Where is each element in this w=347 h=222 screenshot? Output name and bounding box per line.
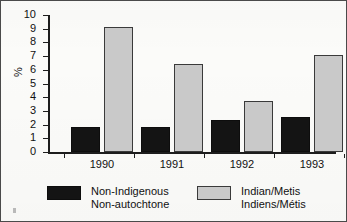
bar-1990-indian-metis [104,27,133,152]
bar-1993-indian-metis [314,55,343,152]
bar-1992-non-indigenous [211,120,240,152]
x-axis-line [48,152,336,154]
chart-legend: Non-Indigenous Non-autochtone Indian/Met… [1,185,347,219]
x-axis-tick [134,154,135,158]
plot-area: 109876543210 [48,15,336,154]
bar-group [211,15,273,152]
legend-label-indian-metis: Indian/Metis Indiens/Métis [241,185,306,210]
y-axis-tick-label: 6 [30,63,36,76]
legend-item-indian-metis: Indian/Metis Indiens/Métis [197,185,306,210]
y-axis-tick-label: 3 [30,104,36,117]
y-axis-tick-label: 4 [30,90,36,103]
legend-label-line-en: Non-Indigenous [91,185,169,198]
x-axis-tick [204,154,205,158]
y-axis-tick: 9 [43,29,48,30]
x-axis-tick [64,154,65,158]
legend-label-non-indigenous: Non-Indigenous Non-autochtone [91,185,169,210]
y-axis-tick: 8 [43,42,48,43]
y-axis-tick: 0 [43,152,48,153]
y-axis-tick-label: 2 [30,118,36,131]
y-axis-title: % [13,67,24,77]
y-axis-tick-label: 1 [30,131,36,144]
y-axis-tick: 10 [43,15,48,16]
y-axis-tick-label: 0 [30,145,36,158]
legend-swatch-non-indigenous [47,186,81,200]
y-axis-tick-label: 7 [30,49,36,62]
bar-group [71,15,133,152]
y-axis-tick: 7 [43,56,48,57]
x-axis-tick [274,154,275,158]
legend-item-non-indigenous: Non-Indigenous Non-autochtone [47,185,169,210]
y-axis-tick-label: 10 [24,8,36,21]
bar-1993-non-indigenous [281,117,310,152]
legend-swatch-indian-metis [197,186,231,200]
y-axis-tick-label: 5 [30,77,36,90]
y-axis-tick: 2 [43,125,48,126]
bar-1992-indian-metis [244,101,273,152]
x-axis-label-1990: 1990 [72,158,132,171]
bar-group [281,15,343,152]
y-axis-tick: 1 [43,138,48,139]
y-axis-tick: 6 [43,70,48,71]
x-axis-label-1991: 1991 [142,158,202,171]
legend-label-line-en: Indian/Metis [241,185,306,198]
bar-group [141,15,203,152]
x-axis-tick [344,154,345,158]
chart-figure: % 109876543210 1990199119921993 Non-Indi… [0,0,347,222]
x-axis-label-1993: 1993 [282,158,342,171]
y-axis-tick-label: 8 [30,35,36,48]
x-axis-label-1992: 1992 [212,158,272,171]
bar-1991-non-indigenous [141,127,170,152]
bar-1991-indian-metis [174,64,203,152]
y-axis-tick: 3 [43,111,48,112]
y-axis-tick-label: 9 [30,22,36,35]
y-axis-tick: 4 [43,97,48,98]
y-axis-tick: 5 [43,84,48,85]
scan-artifact [13,208,16,213]
y-axis-line [48,15,50,154]
legend-label-line-fr: Indiens/Métis [241,198,306,211]
bar-1990-non-indigenous [71,127,100,152]
legend-label-line-fr: Non-autochtone [91,198,169,211]
